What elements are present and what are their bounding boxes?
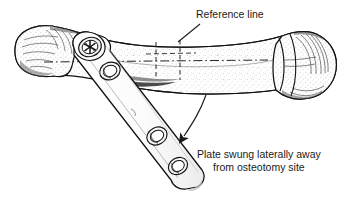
bone-illustration (15, 26, 336, 100)
caption-line-1: Plate swung laterally away (197, 148, 321, 161)
label-reference-line: Reference line (196, 8, 264, 21)
leader-reference-line (178, 24, 200, 42)
caption-line-2: from osteotomy site (197, 161, 321, 174)
bone-distal-head (273, 32, 336, 99)
illustration-canvas (0, 0, 364, 204)
curved-arrow (184, 95, 206, 136)
label-caption: Plate swung laterally away from osteotom… (197, 148, 321, 173)
figure-container: Reference line Plate swung laterally awa… (0, 0, 364, 204)
